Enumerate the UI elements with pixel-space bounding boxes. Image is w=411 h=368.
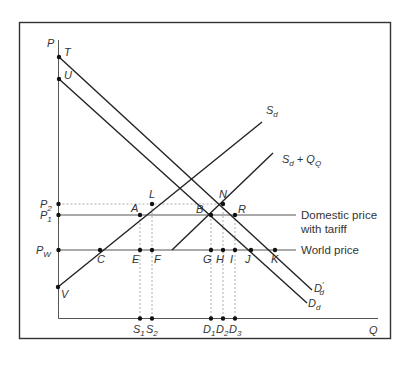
label-b: B xyxy=(196,203,203,215)
label-c: C xyxy=(97,253,105,265)
points xyxy=(56,55,277,321)
frame-border xyxy=(20,23,391,339)
label-t: T xyxy=(64,46,72,58)
label-d1: D1 xyxy=(203,323,215,338)
label-s2: S2 xyxy=(146,323,158,338)
label-a: A xyxy=(130,202,138,214)
label-h: H xyxy=(216,253,224,265)
label-with-tariff: with tariff xyxy=(300,223,348,235)
label-domestic-price: Domestic price xyxy=(301,209,377,221)
label-sd-plus-qq: Sd + QQ xyxy=(282,153,321,168)
label-dd: Dd xyxy=(308,297,321,312)
supply-curve-sd-plus-quota xyxy=(172,153,273,250)
y-axis-label: P xyxy=(47,37,55,49)
label-d3: D3 xyxy=(229,323,242,338)
x-axis-label: Q xyxy=(369,324,378,336)
label-r: R xyxy=(238,203,246,215)
label-d2: D2 xyxy=(216,323,229,338)
label-u: U xyxy=(64,69,72,81)
label-g: G xyxy=(203,253,212,265)
label-j: J xyxy=(244,253,251,265)
label-sd: Sd xyxy=(266,104,278,119)
label-s1: S1 xyxy=(133,323,145,338)
label-n: N xyxy=(219,188,227,200)
label-i: I xyxy=(230,253,233,265)
label-pw: PW xyxy=(36,244,52,259)
label-l: L xyxy=(149,188,155,200)
label-e: E xyxy=(132,253,140,265)
label-k: K xyxy=(271,253,279,265)
label-f: F xyxy=(154,253,162,265)
tariff-diagram: P Q P2 P1 PW T U V L A N B R C E F G H I… xyxy=(0,0,411,368)
label-dd-prime: D′d xyxy=(314,280,324,297)
label-v: V xyxy=(61,288,70,300)
label-world-price: World price xyxy=(301,244,359,256)
